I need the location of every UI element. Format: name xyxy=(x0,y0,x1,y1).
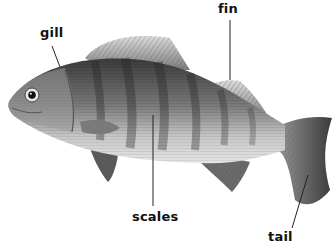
fish-head xyxy=(8,68,73,132)
label-fin: fin xyxy=(218,1,238,16)
eye-icon xyxy=(25,88,39,102)
fish-diagram: gill fin scales tail xyxy=(0,0,335,245)
anal-fin xyxy=(198,159,250,192)
label-scales: scales xyxy=(132,209,178,224)
label-gill: gill xyxy=(40,25,63,40)
label-tail: tail xyxy=(268,229,293,244)
gill-leader-line xyxy=(52,46,60,67)
